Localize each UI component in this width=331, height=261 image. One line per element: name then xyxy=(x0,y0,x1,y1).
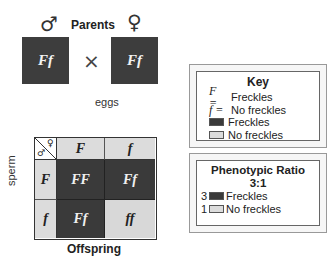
key-swatch-label: Freckles xyxy=(228,116,270,128)
key-frame: Key F = Freckles f = No freckles Freckle… xyxy=(189,64,327,148)
ratio-count: 1 xyxy=(201,203,209,215)
dark-swatch-icon xyxy=(209,192,224,200)
sperm-allele-1-text: F xyxy=(41,172,50,188)
ratio-value: 3:1 xyxy=(197,177,319,190)
key-swatch-label: No freckles xyxy=(228,129,283,141)
male-parent-box: Ff xyxy=(22,37,69,84)
ratio-count: 3 xyxy=(201,190,209,202)
sperm-label: sperm xyxy=(5,146,17,186)
offspring-cell-Ff-1: Ff xyxy=(105,160,155,200)
ratio-title: Phenotypic Ratio xyxy=(197,164,319,177)
eggs-label: eggs xyxy=(95,96,119,108)
offspring-genotype: Ff xyxy=(74,211,88,227)
egg-allele-1: F xyxy=(57,138,105,160)
light-swatch-icon xyxy=(209,205,224,213)
key-label: No freckles xyxy=(231,104,286,116)
ratio-item-no-freckles: 1 No freckles xyxy=(201,203,319,216)
offspring-genotype: Ff xyxy=(123,172,137,188)
key-item-dominant: F = Freckles xyxy=(209,91,319,104)
ratio-label: Freckles xyxy=(226,190,268,202)
sperm-label-text: sperm xyxy=(5,155,17,186)
egg-allele-1-text: F xyxy=(76,141,85,157)
egg-allele-2: f xyxy=(105,138,155,160)
ratio-label: No freckles xyxy=(226,203,281,215)
female-genotype: Ff xyxy=(127,52,142,69)
offspring-label: Offspring xyxy=(67,242,121,256)
ratio-frame: Phenotypic Ratio 3:1 3 Freckles 1 No fre… xyxy=(189,153,327,233)
corner-male-icon: ♂ xyxy=(37,148,45,158)
dark-swatch-icon xyxy=(209,118,224,126)
key-swatch-no-freckles: No freckles xyxy=(209,129,319,142)
light-swatch-icon xyxy=(209,131,224,139)
male-genotype: Ff xyxy=(38,52,53,69)
sperm-allele-1: F xyxy=(35,160,57,200)
key-swatch-freckles: Freckles xyxy=(209,116,319,129)
offspring-cell-FF: FF xyxy=(57,160,105,200)
offspring-genotype: ff xyxy=(125,211,134,227)
key-item-recessive: f = No freckles xyxy=(209,104,319,117)
ratio-item-freckles: 3 Freckles xyxy=(201,190,319,203)
corner-cell: ♀ ♂ xyxy=(35,138,57,160)
punnett-square: ♀ ♂ F f F f FF Ff Ff ff xyxy=(34,137,157,240)
male-symbol-icon: ♂ xyxy=(40,14,58,34)
parents-title: Parents xyxy=(71,18,115,32)
ratio-box: Phenotypic Ratio 3:1 3 Freckles 1 No fre… xyxy=(196,160,320,226)
key-box: Key F = Freckles f = No freckles Freckle… xyxy=(196,71,320,141)
offspring-cell-Ff-2: Ff xyxy=(57,200,105,238)
cross-icon: × xyxy=(83,51,100,71)
corner-female-icon: ♀ xyxy=(47,138,54,148)
sperm-allele-2: f xyxy=(35,200,57,238)
offspring-cell-ff: ff xyxy=(105,200,155,238)
key-symbol: f = xyxy=(209,104,227,116)
female-parent-box: Ff xyxy=(111,37,158,84)
sperm-allele-2-text: f xyxy=(43,211,48,227)
egg-allele-2-text: f xyxy=(128,141,133,157)
key-label: Freckles xyxy=(231,91,273,103)
offspring-genotype: FF xyxy=(71,172,90,188)
female-symbol-icon: ♀ xyxy=(127,12,142,32)
